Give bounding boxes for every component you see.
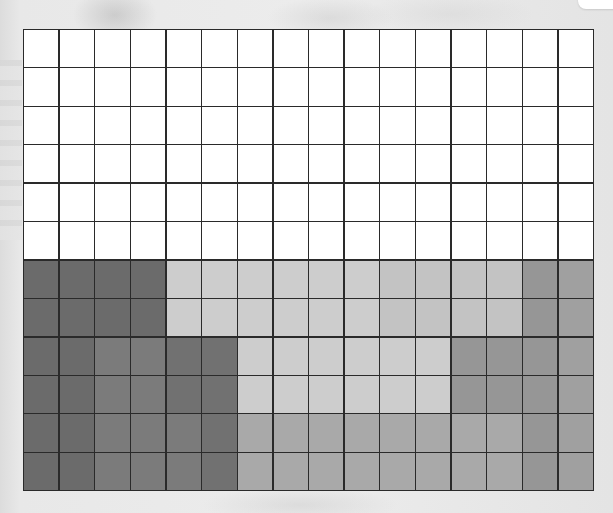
grid-cell xyxy=(274,222,308,259)
grid-cell xyxy=(60,107,94,144)
grid-cell xyxy=(380,68,414,105)
grid-cell xyxy=(309,222,343,259)
grid-cell xyxy=(202,453,236,490)
grid-cell xyxy=(202,338,236,375)
grid-cell xyxy=(452,376,486,413)
grid-cell xyxy=(131,261,165,298)
grid-cell xyxy=(131,414,165,451)
grid-cell xyxy=(345,376,379,413)
grid-cell xyxy=(345,299,379,336)
grid-cell xyxy=(559,299,593,336)
grid-cell xyxy=(309,261,343,298)
grid-cell xyxy=(167,453,201,490)
grid-cell xyxy=(238,299,272,336)
grid-cell xyxy=(274,261,308,298)
grid-cell xyxy=(523,222,557,259)
grid-cell xyxy=(452,184,486,221)
grid-cell xyxy=(238,222,272,259)
grid-cell xyxy=(523,184,557,221)
grid-cell xyxy=(345,184,379,221)
grid-cell xyxy=(238,30,272,67)
grid-cell xyxy=(24,453,58,490)
grid-cell xyxy=(95,107,129,144)
grid-cell xyxy=(238,145,272,182)
grid-cell xyxy=(452,414,486,451)
grid-cell xyxy=(416,338,450,375)
grid-cell xyxy=(380,414,414,451)
grid-cell xyxy=(131,107,165,144)
grid-cell xyxy=(202,68,236,105)
grid-cell xyxy=(416,68,450,105)
grid-cell xyxy=(60,145,94,182)
grid-cell xyxy=(131,299,165,336)
grid-cell xyxy=(380,338,414,375)
grid-cell xyxy=(309,30,343,67)
grid-cell xyxy=(380,261,414,298)
grid-cell xyxy=(95,30,129,67)
grid-cell xyxy=(274,376,308,413)
grid-cell xyxy=(452,299,486,336)
grid-cell xyxy=(274,338,308,375)
grid-cell xyxy=(238,68,272,105)
grid-cell xyxy=(452,453,486,490)
grid-cell xyxy=(131,184,165,221)
grid-cell xyxy=(559,145,593,182)
grid-cell xyxy=(345,414,379,451)
grid-cell xyxy=(487,30,521,67)
grid-cell xyxy=(416,222,450,259)
grid-cell xyxy=(380,376,414,413)
grid-cell xyxy=(202,414,236,451)
grid-cell xyxy=(559,261,593,298)
grid-cell xyxy=(416,107,450,144)
grid-cell xyxy=(559,338,593,375)
grid-cell xyxy=(202,184,236,221)
grid-cell xyxy=(95,145,129,182)
grid-cell xyxy=(202,222,236,259)
grid-cell xyxy=(416,376,450,413)
grid-cell xyxy=(274,30,308,67)
grid-cell xyxy=(487,184,521,221)
grid-cell xyxy=(523,453,557,490)
grid-cell xyxy=(60,338,94,375)
grid-cell xyxy=(416,299,450,336)
grid-cell xyxy=(487,261,521,298)
grid-cell xyxy=(452,107,486,144)
grid-cell xyxy=(523,68,557,105)
grid-cell xyxy=(238,453,272,490)
grid-cell xyxy=(202,107,236,144)
grid-cell xyxy=(95,299,129,336)
grid-cell xyxy=(131,376,165,413)
grid-cell xyxy=(452,338,486,375)
grid-cell xyxy=(523,107,557,144)
grid-cell xyxy=(202,261,236,298)
grid-cell xyxy=(238,338,272,375)
grid-cell xyxy=(309,184,343,221)
grid-cell xyxy=(167,30,201,67)
grid-cell xyxy=(24,184,58,221)
grid-cell xyxy=(309,68,343,105)
grid-cell xyxy=(487,68,521,105)
grid-cell xyxy=(60,184,94,221)
grid-cell xyxy=(167,338,201,375)
grid-cell xyxy=(24,107,58,144)
grid-cell xyxy=(131,30,165,67)
grid-cell xyxy=(309,338,343,375)
grid-cell xyxy=(309,145,343,182)
grid-cell xyxy=(345,30,379,67)
grid-cell xyxy=(380,453,414,490)
grid-cell xyxy=(24,30,58,67)
grid-cell xyxy=(95,261,129,298)
grid-cell xyxy=(523,30,557,67)
grid-cell xyxy=(167,184,201,221)
grid-cell xyxy=(309,299,343,336)
grid-cell xyxy=(487,376,521,413)
grid-cell xyxy=(274,107,308,144)
grid-cell xyxy=(559,453,593,490)
grid-cell xyxy=(274,68,308,105)
grid-cell xyxy=(487,453,521,490)
grid-cell xyxy=(167,376,201,413)
background-pattern xyxy=(0,60,22,240)
shaded-grid-diagram xyxy=(23,29,594,491)
grid-cell xyxy=(274,145,308,182)
grid-cell xyxy=(95,68,129,105)
